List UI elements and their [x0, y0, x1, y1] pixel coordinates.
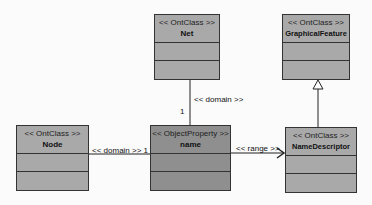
attributes-compartment: [155, 43, 219, 61]
class-name: GraphicalFeature: [283, 28, 349, 40]
stereotype: << ObjectProperty >>: [151, 126, 230, 139]
class-name: Node: [17, 139, 88, 151]
attributes-compartment: [17, 154, 88, 172]
stereotype: << OntClass >>: [17, 126, 88, 139]
class-name-descriptor[interactable]: << OntClass >> NameDescriptor: [285, 127, 357, 193]
attributes-compartment: [151, 154, 230, 172]
class-name: Net: [155, 28, 219, 40]
stereotype: << OntClass >>: [286, 128, 356, 141]
class-name: name: [151, 139, 230, 151]
object-property-name[interactable]: << ObjectProperty >> name: [150, 125, 231, 191]
operations-compartment: [155, 61, 219, 79]
range-label: << range >>: [236, 144, 280, 154]
generalization-triangle-icon: [313, 80, 323, 89]
operations-compartment: [17, 172, 88, 190]
operations-compartment: [283, 61, 349, 79]
attributes-compartment: [286, 156, 356, 174]
class-graphical-feature[interactable]: << OntClass >> GraphicalFeature: [282, 14, 350, 80]
class-name: NameDescriptor: [286, 141, 356, 153]
net-multiplicity-label: 1: [180, 107, 184, 117]
stereotype: << OntClass >>: [155, 15, 219, 28]
operations-compartment: [286, 174, 356, 192]
operations-compartment: [151, 172, 230, 190]
class-node[interactable]: << OntClass >> Node: [16, 125, 89, 191]
net-domain-label: << domain >>: [194, 95, 243, 105]
stereotype: << OntClass >>: [283, 15, 349, 28]
class-net[interactable]: << OntClass >> Net: [154, 14, 220, 80]
node-domain-label: << domain >> 1: [92, 146, 148, 156]
attributes-compartment: [283, 43, 349, 61]
